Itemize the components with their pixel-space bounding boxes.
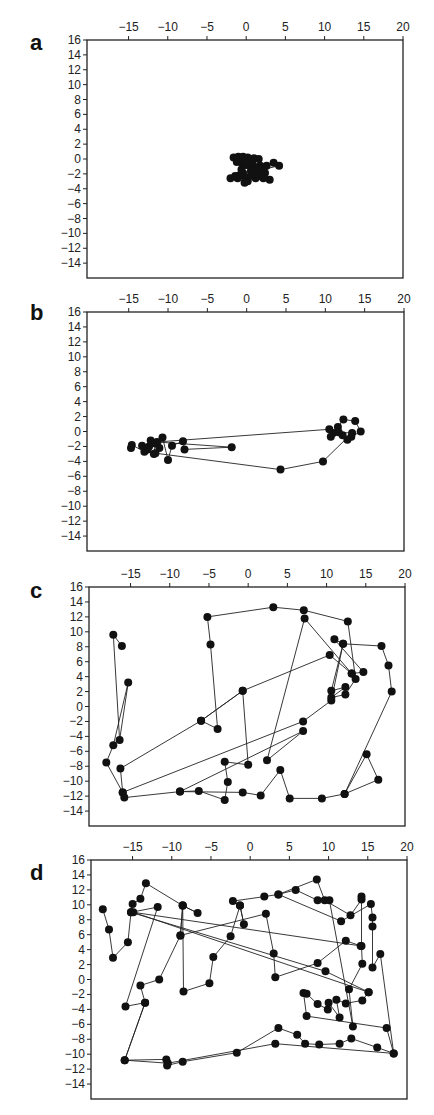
data-point <box>105 926 113 934</box>
data-point <box>205 979 213 987</box>
data-point <box>373 1044 381 1052</box>
y-tick-label: −10 <box>65 1047 86 1061</box>
data-point <box>164 1059 172 1067</box>
data-point <box>270 949 278 957</box>
data-point <box>209 953 217 961</box>
data-point <box>136 982 144 990</box>
y-tick-label: 10 <box>72 898 86 912</box>
y-tick-label: 2 <box>78 958 85 972</box>
data-point <box>155 976 163 984</box>
data-point <box>314 959 322 967</box>
data-point <box>337 917 345 925</box>
data-point <box>383 1024 391 1032</box>
data-point <box>369 964 377 972</box>
data-point <box>274 1024 282 1032</box>
data-point <box>345 985 353 993</box>
x-tick-label: 20 <box>400 840 414 854</box>
data-point <box>369 914 377 922</box>
data-point <box>357 942 365 950</box>
data-point <box>229 897 237 905</box>
x-tick-label: 10 <box>322 840 336 854</box>
data-point <box>376 950 384 958</box>
data-point <box>129 908 137 916</box>
y-tick-label: 8 <box>78 913 85 927</box>
data-point <box>121 1056 129 1064</box>
x-tick-label: −5 <box>204 840 218 854</box>
data-point <box>262 910 270 918</box>
data-point <box>315 1041 323 1049</box>
data-point <box>179 1058 187 1066</box>
y-tick-label: −2 <box>71 987 85 1001</box>
data-point <box>142 879 150 887</box>
data-point <box>293 1031 301 1039</box>
data-point <box>292 886 300 894</box>
data-point <box>274 890 282 898</box>
x-tick-label: −10 <box>162 840 183 854</box>
data-point <box>347 1035 355 1043</box>
y-tick-label: 12 <box>72 883 86 897</box>
data-point <box>303 990 311 998</box>
y-tick-label: 6 <box>78 928 85 942</box>
data-point <box>271 973 279 981</box>
y-tick-label: 0 <box>78 973 85 987</box>
x-tick-label: 0 <box>247 840 254 854</box>
x-tick-label: 5 <box>286 840 293 854</box>
y-tick-label: 4 <box>78 943 85 957</box>
data-point <box>233 1049 241 1057</box>
x-tick-label: 15 <box>361 840 375 854</box>
data-point <box>367 900 375 908</box>
data-point <box>303 1012 311 1020</box>
plot-d: −15−10−5051015201614121086420−2−4−6−8−10… <box>0 0 434 1115</box>
y-tick-label: −4 <box>71 1002 85 1016</box>
data-point <box>122 1002 130 1010</box>
y-tick-label: 16 <box>72 853 86 867</box>
data-point <box>109 954 117 962</box>
x-tick-label: −15 <box>122 840 143 854</box>
y-tick-label: −6 <box>71 1017 85 1031</box>
y-tick-label: −12 <box>65 1062 86 1076</box>
data-point <box>358 960 366 968</box>
data-point <box>240 920 248 928</box>
data-point <box>342 937 350 945</box>
data-point <box>332 996 340 1004</box>
data-point <box>194 909 202 917</box>
data-point <box>325 896 333 904</box>
data-point <box>336 1040 344 1048</box>
data-point <box>260 893 268 901</box>
data-point <box>314 896 322 904</box>
data-point <box>322 967 330 975</box>
data-point <box>301 1040 309 1048</box>
data-point <box>227 932 235 940</box>
panel-d: d −15−10−5051015201614121086420−2−4−6−8−… <box>0 0 434 1115</box>
data-point <box>349 1023 357 1031</box>
data-point <box>129 900 137 908</box>
data-point <box>271 1040 279 1048</box>
data-point <box>313 875 321 883</box>
y-tick-label: 14 <box>72 868 86 882</box>
data-point <box>179 902 187 910</box>
data-point <box>136 895 144 903</box>
data-point <box>99 905 107 913</box>
data-point <box>390 1049 398 1057</box>
y-tick-label: −14 <box>65 1077 86 1091</box>
data-point <box>124 938 132 946</box>
data-point <box>358 893 366 901</box>
data-point <box>358 996 366 1004</box>
data-point <box>154 903 162 911</box>
data-point <box>141 999 149 1007</box>
data-point <box>325 999 333 1007</box>
data-point <box>342 999 350 1007</box>
data-point <box>176 931 184 939</box>
data-point <box>369 923 377 931</box>
data-point <box>365 988 373 996</box>
y-tick-label: −8 <box>71 1032 85 1046</box>
data-point <box>347 911 355 919</box>
data-point <box>236 902 244 910</box>
data-point <box>180 988 188 996</box>
data-point <box>336 1014 344 1022</box>
data-point <box>314 1000 322 1008</box>
